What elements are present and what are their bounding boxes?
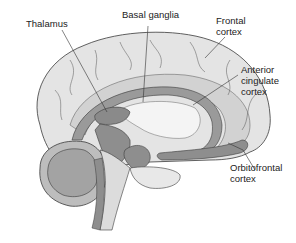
label-thalamus: Thalamus <box>26 18 68 29</box>
label-acc-line3: cortex <box>241 86 279 97</box>
label-ofc-line2: cortex <box>230 173 282 184</box>
label-ofc-line1: Orbitofrontal <box>230 162 282 173</box>
brain-diagram: Thalamus Basal ganglia Frontal cortex An… <box>0 0 296 243</box>
label-frontal-cortex-line1: Frontal <box>216 15 246 26</box>
label-acc-line1: Anterior <box>241 64 279 75</box>
label-frontal-cortex: Frontal cortex <box>216 15 246 37</box>
brain-illustration <box>0 0 296 243</box>
label-frontal-cortex-line2: cortex <box>216 26 246 37</box>
label-acc-line2: cingulate <box>241 75 279 86</box>
hypothalamus-region <box>124 145 150 169</box>
label-basal-ganglia: Basal ganglia <box>122 9 179 20</box>
label-orbitofrontal-cortex: Orbitofrontal cortex <box>230 162 282 184</box>
label-thalamus-text: Thalamus <box>26 18 68 29</box>
cerebellum-inner <box>48 149 98 197</box>
temporal-lobe <box>130 167 180 189</box>
label-basal-ganglia-text: Basal ganglia <box>122 9 179 20</box>
label-anterior-cingulate-cortex: Anterior cingulate cortex <box>241 64 279 97</box>
